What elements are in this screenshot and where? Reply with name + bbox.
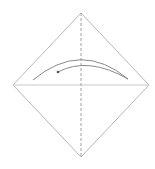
fold-arrow-inner-arc <box>58 65 128 79</box>
origami-diagram <box>0 0 155 169</box>
fold-arrow-dot-icon <box>57 71 60 74</box>
